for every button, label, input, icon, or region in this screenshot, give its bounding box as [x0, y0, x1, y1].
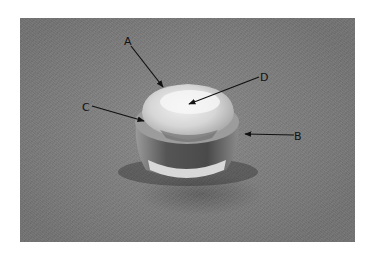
jar-illustration: A B C D [0, 0, 373, 255]
arrow-a-icon [131, 46, 163, 87]
arrow-c-icon [92, 106, 144, 121]
arrow-b-icon [245, 134, 294, 135]
label-b-text: B [294, 130, 302, 143]
label-c: C [82, 101, 144, 121]
label-a-text: A [124, 35, 132, 48]
label-d-text: D [260, 71, 268, 84]
label-b: B [245, 130, 302, 143]
lid-highlight [160, 90, 220, 114]
label-c-text: C [82, 101, 90, 114]
label-a: A [124, 35, 163, 87]
